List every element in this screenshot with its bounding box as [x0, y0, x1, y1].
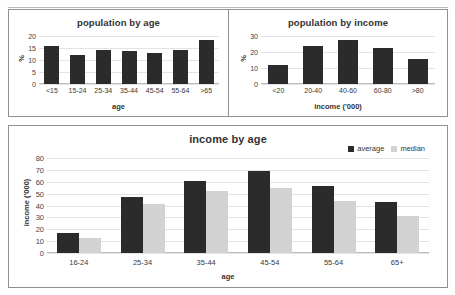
legend-label-average: average	[357, 144, 384, 153]
y-axis-tick-label: 10	[28, 57, 36, 64]
gridline	[47, 217, 429, 218]
x-axis-tick-label: 35-44	[197, 258, 216, 267]
gridline	[39, 36, 219, 37]
bar	[96, 50, 111, 84]
y-axis-tick-label: 70	[36, 165, 44, 174]
y-axis-tick-label: 10	[36, 237, 44, 246]
chart-title-population-by-age: population by age	[9, 17, 228, 28]
chart-panel-population-by-income: population by income % 0102030<2020-4040…	[228, 9, 448, 117]
y-axis-tick-label: 15	[28, 45, 36, 52]
legend-label-median: median	[400, 144, 425, 153]
scan-edge-artifact	[0, 0, 455, 9]
bar	[397, 216, 419, 253]
chart-panel-income-by-age: income by age average median income ('00…	[8, 125, 448, 288]
gridline	[39, 84, 219, 85]
x-axis-tick-label: 55-64	[171, 87, 189, 94]
y-axis-tick-label: 20	[28, 33, 36, 40]
y-axis-tick-label: 30	[36, 213, 44, 222]
gridline	[39, 48, 219, 49]
y-axis-tick-label: 5	[32, 69, 36, 76]
chart-panel-population-by-age: population by age % 05101520<1515-2425-3…	[8, 9, 229, 117]
bar	[173, 50, 188, 84]
y-axis-title-income-by-age: income ('000)	[22, 173, 31, 233]
y-axis-tick-label: 20	[250, 49, 258, 56]
bar	[375, 202, 397, 253]
charts-page: population by age % 05101520<1515-2425-3…	[0, 0, 455, 295]
gridline	[47, 206, 429, 207]
chart-legend-income-by-age: average median	[348, 144, 425, 153]
bar	[70, 55, 85, 84]
gridline	[47, 229, 429, 230]
x-axis-tick-label: 65+	[391, 258, 404, 267]
bar	[44, 46, 59, 84]
y-axis-tick-label: 20	[36, 225, 44, 234]
x-axis-tick-label: 45-54	[260, 258, 279, 267]
legend-swatch-average-icon	[348, 146, 354, 152]
bar	[57, 233, 79, 253]
bar	[373, 48, 393, 84]
x-axis-tick-label: <20	[272, 87, 284, 94]
x-axis-tick-label: 16-24	[69, 258, 88, 267]
bar	[270, 188, 292, 253]
x-axis-tick-label: >65	[200, 87, 212, 94]
bar	[268, 65, 288, 84]
y-axis-tick-label: 50	[36, 189, 44, 198]
y-axis-tick-label: 30	[250, 33, 258, 40]
bar	[338, 40, 358, 84]
bar	[79, 238, 101, 253]
y-axis-tick-label: 60	[36, 177, 44, 186]
y-axis-tick-label: 80	[36, 154, 44, 163]
x-axis-tick-label: 20-40	[304, 87, 322, 94]
x-axis-tick-label: 15-24	[69, 87, 87, 94]
bar	[312, 186, 334, 253]
y-axis-tick-label: 0	[254, 81, 258, 88]
x-axis-line	[47, 252, 429, 253]
x-axis-title-income-by-age: age	[9, 272, 447, 281]
bar	[184, 181, 206, 253]
y-axis-tick-label: 10	[250, 65, 258, 72]
y-axis-tick-label: 0	[32, 81, 36, 88]
bar	[334, 201, 356, 253]
y-axis-title-population-by-income: %	[239, 49, 248, 69]
gridline	[261, 84, 435, 85]
bar	[199, 40, 214, 84]
gridline	[47, 182, 429, 183]
x-axis-tick-label: 25-34	[133, 258, 152, 267]
x-axis-tick-label: 40-60	[339, 87, 357, 94]
gridline	[47, 253, 429, 254]
legend-item-median: median	[391, 144, 425, 153]
x-axis-tick-label: 55-64	[324, 258, 343, 267]
gridline	[47, 194, 429, 195]
bar	[303, 46, 323, 84]
bar	[408, 59, 428, 84]
x-axis-tick-label: 25-34	[94, 87, 112, 94]
bar	[147, 53, 162, 84]
legend-swatch-median-icon	[391, 146, 397, 152]
x-axis-tick-label: 45-54	[146, 87, 164, 94]
y-axis-tick-label: 40	[36, 201, 44, 210]
chart-title-population-by-income: population by income	[229, 17, 447, 28]
gridline	[261, 36, 435, 37]
x-axis-tick-label: 60-80	[374, 87, 392, 94]
x-axis-tick-label: >80	[412, 87, 424, 94]
x-axis-title-population-by-age: age	[9, 102, 228, 111]
plot-area-population-by-age: 05101520<1515-2425-3435-4445-5455-64>65	[39, 36, 219, 84]
gridline	[47, 170, 429, 171]
y-axis-tick-label: 0	[40, 249, 44, 258]
bar	[248, 171, 270, 253]
bar	[122, 51, 137, 84]
x-axis-tick-label: 35-44	[120, 87, 138, 94]
bar	[121, 197, 143, 253]
plot-area-income-by-age: 0102030405060708016-2425-3435-4445-5455-…	[47, 158, 429, 253]
x-axis-tick-label: <15	[46, 87, 58, 94]
legend-item-average: average	[348, 144, 384, 153]
plot-area-population-by-income: 0102030<2020-4040-6060-80>80	[261, 36, 435, 84]
gridline	[47, 158, 429, 159]
y-axis-title-population-by-age: %	[17, 49, 26, 69]
bar	[206, 191, 228, 253]
x-axis-title-population-by-income: income ('000)	[229, 102, 447, 111]
gridline	[47, 241, 429, 242]
bar	[143, 204, 165, 253]
